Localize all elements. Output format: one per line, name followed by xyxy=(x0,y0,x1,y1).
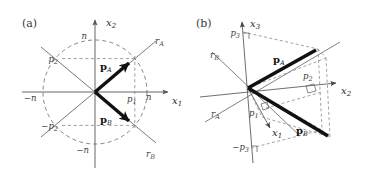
panel-a-label: (a) xyxy=(22,17,37,30)
figure-background xyxy=(0,0,370,187)
figure-svg: (a) x2 x1 rA rB pA pB n −n n xyxy=(0,0,370,187)
panel-a-tick-n-right: n xyxy=(146,92,151,102)
panel-a-tick-neg-n-bottom: −n xyxy=(76,145,89,155)
panel-a-tick-n-top: n xyxy=(82,31,87,41)
figure-container: (a) x2 x1 rA rB pA pB n −n n xyxy=(0,0,370,187)
panel-b-label: (b) xyxy=(196,17,212,30)
panel-a-tick-neg-n-left: −n xyxy=(24,93,37,103)
